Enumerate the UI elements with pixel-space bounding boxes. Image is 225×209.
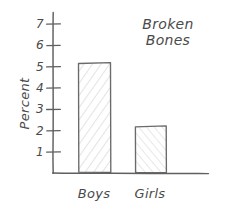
x-axis-label-boys: Boys — [70, 187, 118, 201]
y-tick-label-5: 5 — [26, 61, 44, 73]
y-tick-label-1: 1 — [26, 146, 44, 158]
y-tick-label-7: 7 — [26, 18, 44, 30]
bar-boys — [78, 62, 111, 173]
x-axis-label-girls: Girls — [126, 187, 174, 201]
y-tick-label-3: 3 — [26, 103, 44, 115]
y-axis-tick-labels: 7 6 5 4 3 2 1 — [22, 0, 44, 209]
y-tick-label-4: 4 — [26, 82, 44, 94]
chart-title-line-1: Broken — [118, 16, 218, 32]
bar-girls — [135, 126, 167, 173]
chart-title-line-2: Bones — [118, 32, 218, 48]
broken-bones-bar-chart: Broken Bones Percent 7 6 5 4 3 2 1 Boys … — [0, 0, 225, 209]
y-tick-label-6: 6 — [26, 39, 44, 51]
chart-title: Broken Bones — [118, 16, 218, 48]
y-tick-label-2: 2 — [26, 125, 44, 137]
